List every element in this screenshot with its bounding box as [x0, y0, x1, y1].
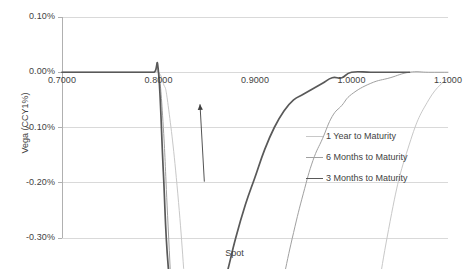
- x-tick-label: 0.7000: [32, 75, 92, 85]
- legend-item[interactable]: 6 Months to Maturity: [306, 151, 408, 163]
- legend-line-swatch: [306, 157, 323, 158]
- chart-legend: 1 Year to Maturity6 Months to Maturity3 …: [306, 130, 408, 184]
- y-tick-label: 0.10%: [7, 11, 55, 21]
- y-tick-label: -0.10%: [7, 122, 55, 132]
- gridlines: [62, 17, 448, 238]
- x-tick-label: 1.1000: [418, 75, 469, 85]
- x-tick-label: 1.0000: [322, 75, 382, 85]
- legend-item-label: 3 Months to Maturity: [326, 172, 408, 184]
- x-tick-label: 0.8000: [129, 75, 189, 85]
- annotation-arrow: [198, 104, 205, 181]
- x-axis-title: Spot: [0, 248, 469, 258]
- vega-spot-line-chart: 0.10%0.00%-0.10%-0.20%-0.30% 0.70000.800…: [0, 0, 469, 269]
- x-tick-label: 0.9000: [225, 75, 285, 85]
- legend-line-swatch: [306, 136, 323, 137]
- y-tick-label: -0.20%: [7, 177, 55, 187]
- legend-item[interactable]: 1 Year to Maturity: [306, 130, 408, 142]
- legend-item-label: 6 Months to Maturity: [326, 151, 408, 163]
- y-tick-label: -0.30%: [7, 232, 55, 242]
- legend-item[interactable]: 3 Months to Maturity: [306, 172, 408, 184]
- axis-lines: [58, 17, 62, 238]
- legend-line-swatch: [306, 178, 323, 179]
- y-axis-title: Vega (CCY1%): [20, 68, 30, 178]
- legend-item-label: 1 Year to Maturity: [326, 130, 396, 142]
